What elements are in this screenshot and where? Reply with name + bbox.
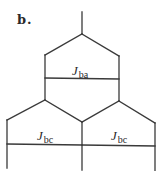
- upper-left-roof-edge: [45, 34, 82, 55]
- coupling-subscript: ba: [79, 69, 88, 80]
- coupling-subscript: bc: [118, 134, 127, 145]
- panel-label: b.: [17, 12, 33, 27]
- mid-right-diagonal-edge: [82, 101, 119, 122]
- lower-right-roof-edge: [119, 101, 155, 123]
- coupling-symbol: J: [72, 63, 78, 78]
- coupling-label-ba: Jba: [72, 64, 88, 77]
- lower-left-roof-edge: [7, 100, 45, 120]
- coupling-symbol: J: [37, 128, 43, 143]
- lower-right-bond-bc: [82, 145, 155, 146]
- coupling-label-bc-left: Jbc: [37, 129, 53, 142]
- mid-left-diagonal-edge: [45, 100, 82, 122]
- coupling-diagram: b. Jba Jbc Jbc: [0, 0, 163, 171]
- upper-right-roof-edge: [82, 34, 119, 56]
- coupling-subscript: bc: [44, 134, 53, 145]
- coupling-label-bc-right: Jbc: [111, 129, 127, 142]
- coupling-symbol: J: [111, 128, 117, 143]
